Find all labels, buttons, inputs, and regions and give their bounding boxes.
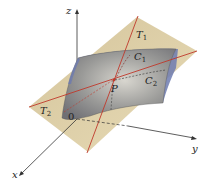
y-axis-arrow-icon xyxy=(191,136,197,140)
point-p xyxy=(113,79,115,81)
x-axis-label: x xyxy=(12,169,18,180)
tangent-plane-diagram: z x y 0 P T1 T2 C1 C2 xyxy=(0,0,208,186)
origin-label: 0 xyxy=(68,111,74,122)
x-axis xyxy=(21,119,77,174)
y-axis xyxy=(128,126,194,138)
z-axis-label: z xyxy=(65,5,72,16)
z-axis-arrow-icon xyxy=(75,9,79,14)
point-p-label: P xyxy=(110,83,118,94)
y-axis-label: y xyxy=(191,143,198,154)
